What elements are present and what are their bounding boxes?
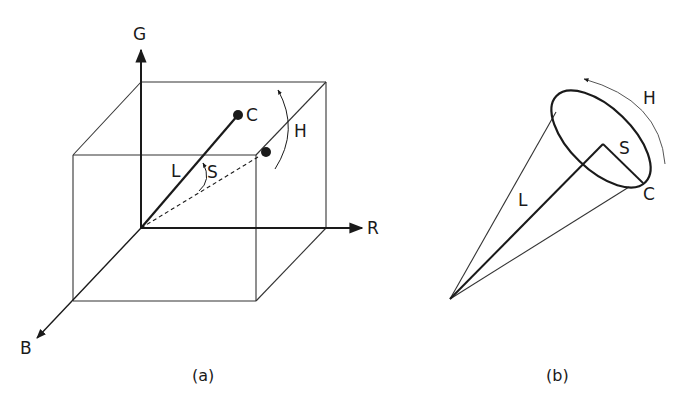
axis-label-r: R — [367, 218, 379, 238]
caption-b: (b) — [546, 366, 569, 385]
cone-side-lower — [450, 187, 629, 299]
label-l-a: L — [171, 161, 181, 181]
dashed-projection — [141, 157, 258, 228]
figure-canvas: G R B C H L S (a) H S C L (b) — [0, 0, 682, 403]
label-c-a: C — [246, 105, 258, 125]
hsl-cone-diagram: H S C L (b) — [450, 74, 667, 385]
cube-edges — [73, 82, 326, 301]
rgb-cube-diagram: G R B C H L S (a) — [20, 24, 379, 385]
label-h-b: H — [643, 88, 656, 108]
projected-point — [261, 147, 271, 157]
axis-label-g: G — [133, 24, 146, 44]
l-axis — [450, 144, 603, 299]
label-h-a: H — [294, 121, 307, 141]
caption-a: (a) — [192, 366, 214, 385]
l-vector — [141, 115, 238, 228]
cone-side-upper — [450, 112, 556, 299]
h-arc — [275, 90, 288, 169]
label-s-b: S — [619, 138, 630, 158]
axis-label-b: B — [20, 338, 32, 358]
b-axis — [37, 228, 141, 338]
label-l-b: L — [518, 190, 528, 210]
s-arc — [199, 163, 207, 191]
label-s-a: S — [207, 162, 218, 182]
point-c — [233, 110, 243, 120]
label-c-b: C — [643, 184, 655, 204]
